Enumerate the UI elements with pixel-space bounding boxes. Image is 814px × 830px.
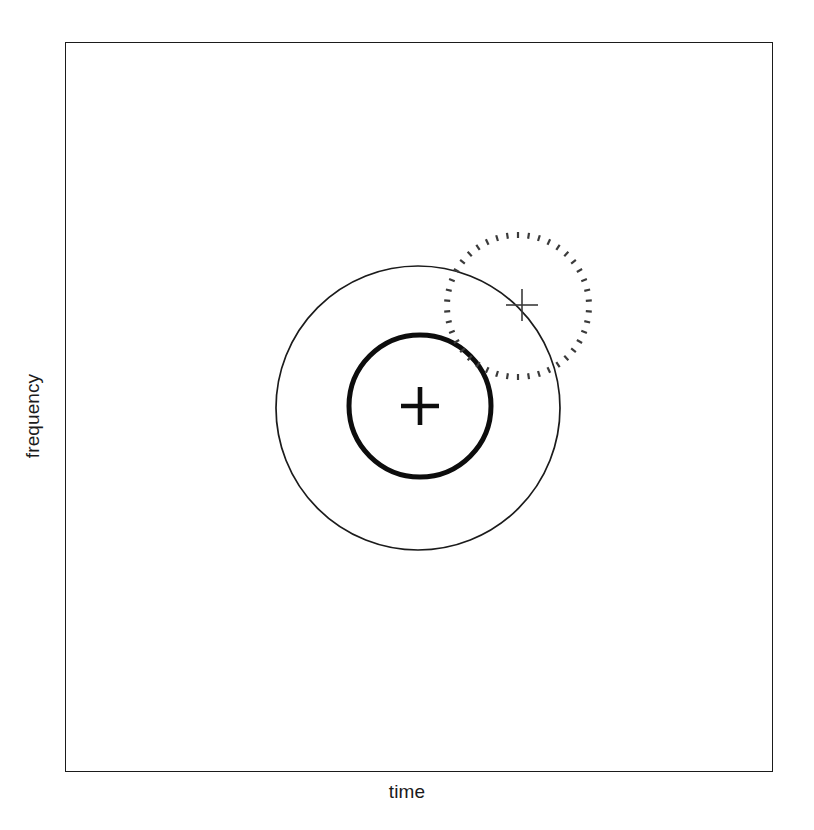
figure-container: time frequency <box>0 0 814 830</box>
x-axis-label: time <box>0 781 814 803</box>
y-axis-label: frequency <box>22 336 44 496</box>
plot-frame <box>65 42 773 772</box>
